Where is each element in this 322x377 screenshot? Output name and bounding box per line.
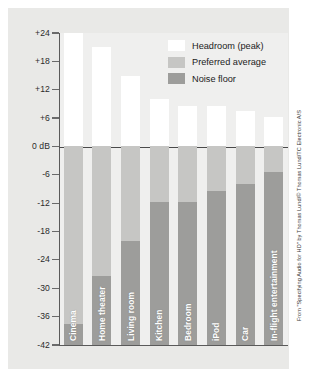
bar-segment-preferred-average <box>236 146 255 184</box>
chart-figure: +24+18+12+60 dB-6-12-18-24-30-36-42 Cine… <box>0 0 322 377</box>
y-tick-neg6 <box>52 174 59 175</box>
y-tick-0 <box>52 146 59 147</box>
y-tick-24 <box>52 32 59 33</box>
bar-group[interactable]: Home theater <box>92 33 111 345</box>
y-tick-label: -30 <box>4 283 50 293</box>
y-tick-neg42 <box>52 344 59 345</box>
source-credit: From "Specifying Audio for HD" by Thomas… <box>296 110 302 321</box>
legend-swatch-headroom <box>168 40 185 51</box>
bar-group[interactable]: In-flight entertainment <box>264 33 283 345</box>
y-tick-label: -18 <box>4 226 50 236</box>
y-tick-label: 0 dB <box>4 141 50 151</box>
y-tick-label: +18 <box>4 56 50 66</box>
legend-label-noise-floor: Noise floor <box>192 74 236 84</box>
bar-segment-preferred-average <box>121 146 140 241</box>
bar-category-label: Bedroom <box>183 304 193 341</box>
legend-item-noise-floor: Noise floor <box>168 73 266 84</box>
bar-segment-preferred-average <box>64 146 83 323</box>
y-tick-label: -6 <box>4 169 50 179</box>
y-tick-label: -42 <box>4 340 50 350</box>
y-tick-label: -36 <box>4 311 50 321</box>
y-tick-neg30 <box>52 288 59 289</box>
bar-segment-headroom <box>178 106 197 146</box>
bar-segment-headroom <box>64 33 83 146</box>
legend-label-headroom: Headroom (peak) <box>192 41 264 51</box>
bar-group[interactable]: Kitchen <box>150 33 169 345</box>
bar-segment-headroom <box>236 111 255 146</box>
bar-category-label: Kitchen <box>154 310 164 341</box>
y-tick-6 <box>52 117 59 118</box>
bar-group[interactable]: Cinema <box>64 33 83 345</box>
bar-segment-headroom <box>207 106 226 146</box>
bar-category-label: Cinema <box>68 310 78 341</box>
bar-segment-preferred-average <box>264 146 283 172</box>
bar-segment-preferred-average <box>92 146 111 276</box>
y-tick-18 <box>52 61 59 62</box>
y-tick-12 <box>52 89 59 90</box>
y-tick-label: -24 <box>4 254 50 264</box>
y-tick-label: -12 <box>4 198 50 208</box>
bar-category-label: In-flight entertainment <box>269 250 279 341</box>
legend-item-headroom: Headroom (peak) <box>168 40 266 51</box>
y-tick-neg24 <box>52 259 59 260</box>
y-tick-neg12 <box>52 203 59 204</box>
y-tick-neg18 <box>52 231 59 232</box>
bar-segment-headroom <box>121 76 140 147</box>
legend-label-preferred-average: Preferred average <box>192 57 266 67</box>
bar-category-label: Living room <box>126 292 136 341</box>
bar-segment-preferred-average <box>150 146 169 202</box>
legend-item-preferred-average: Preferred average <box>168 57 266 68</box>
bar-segment-headroom <box>150 99 169 146</box>
legend-swatch-preferred-average <box>168 57 185 68</box>
bar-segment-headroom <box>92 47 111 146</box>
chart-legend: Headroom (peak) Preferred average Noise … <box>168 40 266 90</box>
bar-segment-noise-floor <box>236 184 255 345</box>
legend-swatch-noise-floor <box>168 73 185 84</box>
bar-category-label: iPod <box>211 322 221 341</box>
bar-group[interactable]: Living room <box>121 33 140 345</box>
y-tick-label: +6 <box>4 113 50 123</box>
y-tick-label: +24 <box>4 28 50 38</box>
bar-segment-preferred-average <box>207 146 226 191</box>
bar-segment-preferred-average <box>178 146 197 202</box>
y-tick-label: +12 <box>4 84 50 94</box>
bar-category-label: Home theater <box>97 286 107 341</box>
bar-segment-headroom <box>264 117 283 147</box>
bar-category-label: Car <box>240 327 250 341</box>
y-tick-neg36 <box>52 316 59 317</box>
